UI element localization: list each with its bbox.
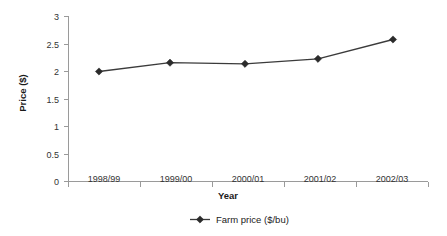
- x-axis-tick-labels: 1998/99 1999/00 2000/01 2001/02 2002/03: [88, 174, 409, 184]
- y-axis-title: Price ($): [17, 74, 28, 112]
- data-point-4: [389, 36, 396, 43]
- legend: Farm price ($/bu): [190, 214, 289, 225]
- data-point-3: [314, 55, 321, 62]
- legend-diamond-icon: [196, 216, 203, 223]
- y-tick-label-0-5: 0.5: [46, 150, 59, 160]
- axis-lines: [68, 16, 428, 182]
- y-axis-tick-labels: 3 2.5 2 1.5 1 0.5 0: [46, 12, 59, 187]
- chart-canvas: 3 2.5 2 1.5 1 0.5 0 1998/99 1999/00 2000…: [0, 0, 447, 236]
- y-tick-label-2-5: 2.5: [46, 40, 59, 50]
- x-tick-label-4: 2002/03: [376, 174, 409, 184]
- data-point-1: [166, 59, 173, 66]
- series-markers: [95, 36, 396, 75]
- y-tick-label-3: 3: [54, 12, 59, 22]
- y-tick-label-1: 1: [54, 122, 59, 132]
- x-tick-label-0: 1998/99: [88, 174, 121, 184]
- x-axis-title: Year: [218, 190, 238, 201]
- x-tick-label-2: 2000/01: [232, 174, 265, 184]
- data-point-0: [95, 68, 102, 75]
- x-tick-label-1: 1999/00: [160, 174, 193, 184]
- data-point-2: [241, 60, 248, 67]
- y-tick-label-2: 2: [54, 67, 59, 77]
- legend-label-farm-price: Farm price ($/bu): [216, 214, 289, 225]
- y-tick-label-1-5: 1.5: [46, 95, 59, 105]
- line-chart: 3 2.5 2 1.5 1 0.5 0 1998/99 1999/00 2000…: [0, 0, 447, 236]
- y-axis-ticks: [64, 17, 69, 182]
- x-tick-label-3: 2001/02: [304, 174, 337, 184]
- y-tick-label-0: 0: [54, 177, 59, 187]
